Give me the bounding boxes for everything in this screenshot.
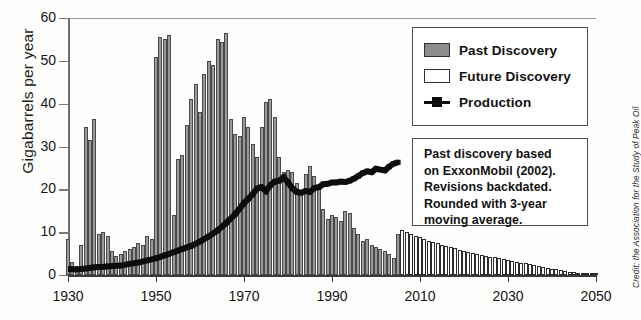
x-tick-2050: [596, 275, 597, 282]
y-tick-label-0: 0: [18, 266, 56, 282]
y-tick-label-60: 60: [18, 9, 56, 25]
x-tick-1990: [332, 275, 333, 282]
x-tick-2030: [508, 275, 509, 282]
x-tick-label-1970: 1970: [214, 288, 274, 304]
x-tick-label-1950: 1950: [126, 288, 186, 304]
production-marker-1966: [224, 220, 229, 225]
x-tick-label-1990: 1990: [302, 288, 362, 304]
annotation-line-4: Rounded with 3-year: [424, 196, 587, 213]
legend-item-past-discovery: Past Discovery: [424, 37, 587, 63]
x-tick-1950: [156, 275, 157, 282]
legend-item-future-discovery: Future Discovery: [424, 63, 587, 89]
production-line-swatch-icon: [424, 95, 450, 109]
production-marker-1934: [83, 266, 88, 271]
x-tick-1930: [68, 275, 69, 282]
x-tick-label-2030: 2030: [478, 288, 538, 304]
production-marker-1971: [246, 196, 251, 201]
y-tick-label-20: 20: [18, 180, 56, 196]
production-marker-1964: [215, 228, 220, 233]
legend-label-production: Production: [459, 95, 531, 110]
production-marker-1936: [92, 265, 97, 270]
production-marker-2005: [395, 160, 400, 165]
annotation-line-5: moving average.: [424, 212, 587, 229]
production-marker-1972: [250, 191, 255, 196]
production-marker-1942: [118, 263, 123, 268]
annotation-line-3: Revisions backdated.: [424, 179, 587, 196]
production-marker-1956: [180, 246, 185, 251]
legend-label-past-discovery: Past Discovery: [459, 43, 557, 58]
legend-item-production: Production: [424, 89, 587, 115]
legend-label-future-discovery: Future Discovery: [459, 69, 571, 84]
x-tick-label-2010: 2010: [390, 288, 450, 304]
production-marker-1958: [189, 243, 194, 248]
x-tick-1970: [244, 275, 245, 282]
production-marker-1962: [206, 234, 211, 239]
production-marker-1944: [127, 261, 132, 266]
production-marker-1979: [281, 175, 286, 180]
annotation-line-2: on ExxonMobil (2002).: [424, 163, 587, 180]
annotation-line-1: Past discovery based: [424, 146, 587, 163]
credit-text: Credit: the Association for the Study of…: [631, 78, 641, 292]
production-marker-1930: [68, 266, 71, 271]
annotation-box: Past discovery based on ExxonMobil (2002…: [412, 138, 588, 226]
production-marker-1954: [171, 250, 176, 255]
production-marker-1980: [285, 180, 290, 185]
production-marker-1946: [136, 260, 141, 265]
production-marker-1952: [162, 253, 167, 258]
production-marker-1975: [263, 188, 268, 193]
y-tick-label-40: 40: [18, 95, 56, 111]
chart-legend: Past Discovery Future Discovery Producti…: [412, 27, 588, 126]
future-discovery-swatch-icon: [424, 69, 450, 83]
production-marker-1938: [101, 264, 106, 269]
past-discovery-swatch-icon: [424, 43, 450, 57]
production-marker-1968: [233, 212, 238, 217]
production-marker-1950: [153, 256, 158, 261]
production-marker-1960: [197, 239, 202, 244]
y-tick-label-30: 30: [18, 138, 56, 154]
production-marker-1940: [109, 263, 114, 268]
y-tick-label-50: 50: [18, 52, 56, 68]
production-marker-1932: [74, 267, 79, 272]
x-tick-2010: [420, 275, 421, 282]
y-tick-label-10: 10: [18, 223, 56, 239]
x-tick-label-2050: 2050: [566, 288, 626, 304]
production-marker-1948: [145, 258, 150, 263]
x-tick-label-1930: 1930: [38, 288, 98, 304]
